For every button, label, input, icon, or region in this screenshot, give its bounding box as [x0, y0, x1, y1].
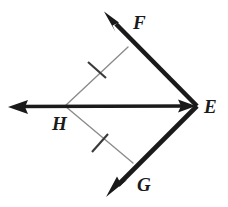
ray-EH-shaft	[16, 106, 190, 107]
ray-EF	[104, 12, 197, 107]
arrowhead-at-F	[104, 12, 119, 33]
arrowhead-left	[8, 100, 28, 114]
vertex-label-h: H	[52, 114, 67, 133]
tick-mark-lower	[92, 134, 108, 152]
ray-EG-shaft	[118, 106, 197, 185]
vertex-label-f: F	[133, 13, 146, 32]
ray-EH	[8, 100, 196, 115]
segment-H-to-EG	[65, 106, 133, 163]
geometry-figure: F E H G	[0, 0, 228, 207]
vertex-label-g: G	[137, 175, 151, 194]
geometry-canvas	[0, 0, 228, 207]
vertex-label-e: E	[204, 97, 217, 116]
segment-H-to-EF	[65, 47, 128, 106]
ray-EF-shaft	[116, 24, 197, 106]
